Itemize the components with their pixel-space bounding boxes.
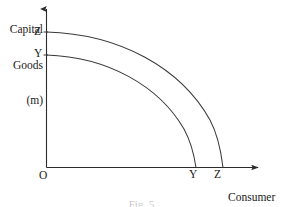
ppf-curve-inner-yy [47,55,197,168]
origin-label: O [39,170,47,182]
y-intercept-label-outer: Z [34,26,41,38]
x-intercept-label-outer: Z [214,169,221,181]
y-intercept-label-inner: Y [34,48,42,60]
y-axis-title-line-3: (m) [0,95,43,107]
ppf-figure: Capital Goods (m) Consumer Goods (m) O Z… [0,0,283,207]
x-intercept-label-inner: Y [189,169,197,181]
y-axis-title-line-2: Goods [0,60,43,72]
y-axis-title: Capital Goods (m) [0,1,43,130]
figure-caption: Fig. 5 [0,199,283,207]
ppf-curve-outer-zz [47,32,224,168]
